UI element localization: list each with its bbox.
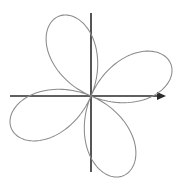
figure-root bbox=[0, 0, 179, 181]
rose-curve-plot bbox=[0, 0, 179, 181]
